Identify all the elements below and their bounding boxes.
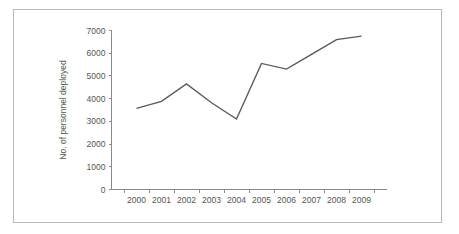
y-tick-label: 5000 [87, 71, 106, 81]
y-tick-label: 1000 [87, 162, 106, 172]
x-tick-label-group: 2000200120022003200420052006200720082009 [127, 195, 371, 205]
x-tick-label: 2002 [177, 195, 196, 205]
y-tick-label: 6000 [87, 48, 106, 58]
x-tick-label: 2005 [252, 195, 271, 205]
y-tick-label-group: 01000200030004000500060007000 [87, 26, 106, 195]
x-tick-label: 2006 [277, 195, 296, 205]
y-tick-label: 3000 [87, 116, 106, 126]
y-tick-label: 4000 [87, 94, 106, 104]
x-tick-label: 2008 [327, 195, 346, 205]
y-tick-label: 2000 [87, 139, 106, 149]
y-tick-label: 7000 [87, 26, 106, 36]
y-axis-title: No. of personnel deployed [58, 60, 68, 160]
figure-frame: 01000200030004000500060007000 2000200120… [13, 9, 442, 223]
y-tick-label: 0 [101, 185, 106, 195]
x-tick-label: 2009 [352, 195, 371, 205]
data-series-line [137, 36, 362, 119]
x-tick-label: 2003 [202, 195, 221, 205]
x-tick-label: 2000 [127, 195, 146, 205]
x-tick-label: 2007 [302, 195, 321, 205]
line-chart: 01000200030004000500060007000 2000200120… [14, 10, 443, 224]
x-tick-label: 2004 [227, 195, 246, 205]
x-tick-label: 2001 [152, 195, 171, 205]
